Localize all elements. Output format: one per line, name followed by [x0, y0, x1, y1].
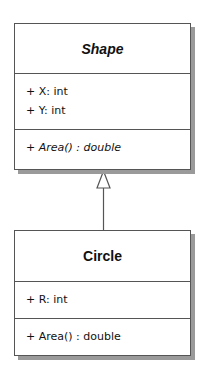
class-name: Shape: [15, 24, 190, 74]
operation-area: + Area() : double: [26, 138, 190, 157]
attribute-r: + R: int: [26, 290, 190, 309]
operations-compartment: + Area() : double: [15, 130, 190, 169]
hollow-triangle-arrowhead-icon: [97, 171, 110, 188]
attributes-compartment: + R: int: [15, 282, 190, 319]
class-circle[interactable]: Circle + R: int + Area() : double: [14, 230, 191, 356]
attribute-y: + Y: int: [26, 101, 190, 120]
class-name: Circle: [15, 231, 190, 282]
attribute-x: + X: int: [26, 82, 190, 101]
operations-compartment: + Area() : double: [15, 319, 190, 355]
class-shape[interactable]: Shape + X: int + Y: int + Area() : doubl…: [14, 23, 191, 170]
attributes-compartment: + X: int + Y: int: [15, 74, 190, 130]
operation-area: + Area() : double: [26, 327, 190, 346]
